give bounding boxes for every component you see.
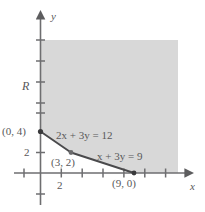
x-tick-label-2: 2	[57, 180, 63, 191]
feasible-region-plot	[0, 0, 205, 212]
vertex-dot-3-2	[69, 150, 74, 155]
point-label-9-0: (9, 0)	[112, 178, 136, 189]
y-axis-label: y	[51, 11, 56, 22]
equation-label-2: x + 3y = 9	[97, 151, 142, 162]
equation-label-1: 2x + 3y = 12	[56, 130, 112, 141]
x-axis-label: x	[190, 181, 195, 192]
region-label-R: R	[22, 80, 29, 92]
vertex-dot-0-4	[38, 129, 43, 134]
point-label-0-4: (0, 4)	[2, 126, 26, 137]
point-label-3-2: (3, 2)	[51, 157, 75, 168]
figure-canvas: y x R (0, 4) (3, 2) (9, 0) 2x + 3y = 12 …	[0, 0, 205, 212]
y-tick-label-2: 2	[24, 147, 30, 158]
vertex-dot-9-0	[132, 171, 137, 176]
